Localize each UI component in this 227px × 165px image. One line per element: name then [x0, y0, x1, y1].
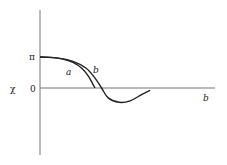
curve-b	[40, 57, 150, 102]
y-axis-label: χ	[10, 84, 16, 94]
diagram: χ π 0 a b b	[0, 0, 227, 165]
curve-b-label: b	[93, 65, 99, 75]
x-axis-label: b	[203, 93, 209, 103]
curve-a-label: a	[66, 67, 71, 77]
y-tick-pi: π	[29, 52, 35, 62]
y-tick-zero: 0	[30, 84, 36, 94]
